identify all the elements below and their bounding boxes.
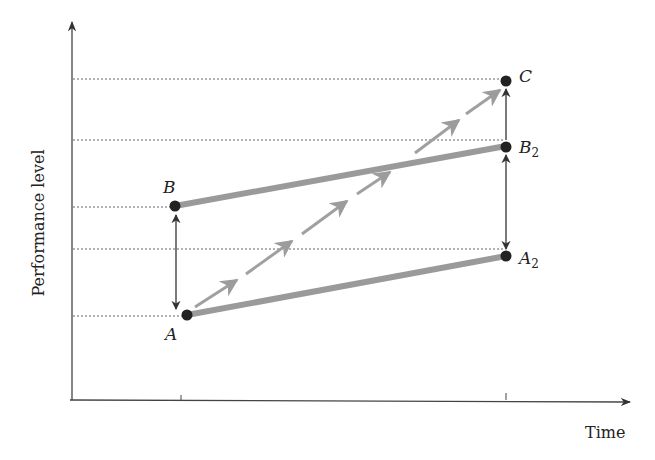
guide-lines: [73, 79, 503, 316]
label-b2-main: B: [518, 137, 532, 157]
x-axis-label: Time: [585, 423, 625, 442]
label-b: B: [162, 177, 176, 197]
label-a: A: [163, 324, 177, 344]
label-b2: B2: [518, 137, 539, 160]
point-b2: [501, 142, 512, 153]
point-b: [170, 201, 181, 212]
point-a2: [501, 251, 512, 262]
y-axis-label: Performance level: [29, 149, 48, 296]
label-a2: A2: [517, 248, 539, 271]
label-c: C: [519, 66, 532, 86]
line-a-to-a2: [187, 256, 506, 315]
point-a: [182, 310, 193, 321]
line-b-to-b2: [175, 146, 506, 206]
label-a2-sub: 2: [531, 257, 539, 271]
x-axis: [70, 400, 630, 402]
performance-diagram: A B A2 B2 C Time Performance level: [0, 0, 655, 460]
label-a2-main: A: [517, 248, 531, 268]
label-b2-sub: 2: [532, 146, 540, 160]
point-c: [501, 76, 512, 87]
dashed-arrow-a-to-c: [195, 90, 500, 307]
